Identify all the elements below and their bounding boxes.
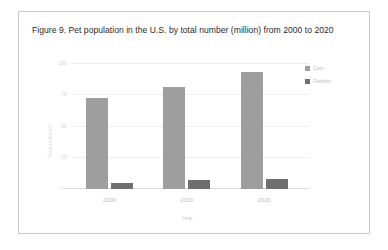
- x-axis-title: Year: [71, 215, 303, 221]
- y-axis-tick-label: 100: [58, 60, 67, 66]
- figure-card: Figure 9. Pet population in the U.S. by …: [18, 11, 370, 234]
- plot-area: 255075100 200020102020: [71, 64, 303, 189]
- bar-cats-2020[interactable]: [241, 72, 263, 190]
- bar-rabbits-2010[interactable]: [188, 180, 210, 189]
- bar-chart: Total (millions) 255075100 200020102020 …: [29, 55, 361, 227]
- bar-group: 2010: [148, 64, 225, 189]
- y-axis-tick-label: 75: [61, 91, 67, 97]
- bar-group: 2000: [71, 64, 148, 189]
- chart-legend: CatsRabbits: [305, 65, 359, 91]
- figure-caption: Figure 9. Pet population in the U.S. by …: [32, 24, 354, 37]
- legend-label: Cats: [313, 65, 324, 71]
- x-axis-tick-label: 2010: [148, 197, 225, 203]
- y-axis-tick-label: 50: [61, 123, 67, 129]
- legend-item-rabbits[interactable]: Rabbits: [305, 78, 359, 84]
- bar-cats-2010[interactable]: [163, 87, 185, 190]
- legend-swatch-cats-icon: [305, 66, 310, 71]
- x-axis-tick-label: 2020: [226, 197, 303, 203]
- legend-swatch-rabbits-icon: [305, 79, 310, 84]
- y-axis-tick-label: 25: [61, 154, 67, 160]
- bar-rabbits-2020[interactable]: [266, 179, 288, 189]
- bar-group: 2020: [226, 64, 303, 189]
- bar-groups: 200020102020: [71, 64, 303, 189]
- bar-rabbits-2000[interactable]: [111, 183, 133, 189]
- legend-label: Rabbits: [313, 78, 331, 84]
- x-axis-tick-label: 2000: [71, 197, 148, 203]
- bar-cats-2000[interactable]: [86, 98, 108, 189]
- legend-item-cats[interactable]: Cats: [305, 65, 359, 71]
- y-axis-title: Total (millions): [47, 124, 53, 158]
